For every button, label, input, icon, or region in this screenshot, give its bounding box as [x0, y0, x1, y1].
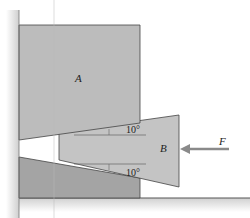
angle-label-bottom: 10°: [126, 167, 140, 178]
angle-label-top: 10°: [126, 124, 140, 135]
wedge-diagram: A B 10° 10° F: [0, 0, 250, 218]
floor: [19, 198, 250, 212]
wall: [6, 10, 19, 218]
label-a: A: [74, 72, 82, 84]
label-f: F: [218, 135, 226, 147]
force-arrow-head-icon: [180, 144, 190, 154]
label-b: B: [160, 142, 167, 154]
